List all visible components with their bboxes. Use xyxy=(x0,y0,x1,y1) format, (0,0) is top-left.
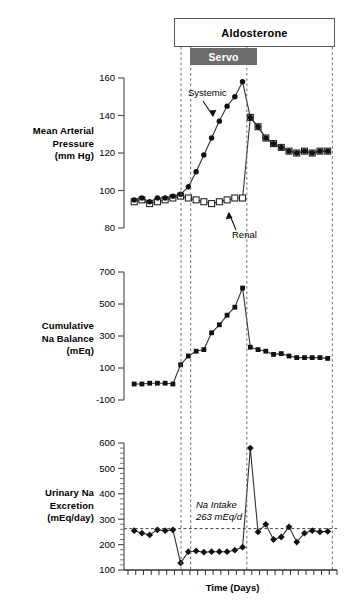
data-point-filled xyxy=(256,347,261,352)
y-axis-tick-label: 140 xyxy=(99,110,115,121)
data-point-filled xyxy=(318,355,323,360)
data-point-open xyxy=(216,199,222,205)
data-point-open xyxy=(224,197,230,203)
data-point-filled xyxy=(294,355,299,360)
data-point-filled xyxy=(193,169,198,174)
data-point-filled xyxy=(217,118,222,123)
y-axis-tick-label: 100 xyxy=(99,564,115,575)
data-point-filled xyxy=(139,195,144,200)
data-point-filled xyxy=(287,354,292,359)
data-point-filled xyxy=(310,355,315,360)
systemic-label: Systemic xyxy=(188,87,227,98)
y-axis-tick-label: 160 xyxy=(99,72,115,83)
data-point-open xyxy=(232,195,238,201)
y-axis-tick-label: 120 xyxy=(99,147,115,158)
data-point-filled xyxy=(231,547,238,554)
data-point-filled xyxy=(240,286,245,291)
data-point-filled xyxy=(146,532,153,539)
data-point-filled xyxy=(147,199,152,204)
data-point-filled xyxy=(201,347,206,352)
data-point-filled xyxy=(163,381,168,386)
y-axis-tick-label: 300 xyxy=(99,330,115,341)
systemic-arrow-icon xyxy=(209,110,216,117)
figure-root: Mean Arterial Pressure (mm Hg) Cumulativ… xyxy=(0,0,344,606)
data-point-filled xyxy=(154,526,161,533)
y-axis-tick-label: 600 xyxy=(99,437,115,448)
data-point-open xyxy=(209,201,215,207)
data-point-filled xyxy=(232,94,237,99)
data-point-filled xyxy=(147,381,152,386)
data-point-filled xyxy=(216,548,223,555)
data-point-filled xyxy=(279,145,284,150)
charts-svg: 16014012010080700500300100-1006005004003… xyxy=(0,0,344,606)
data-point-filled xyxy=(294,150,299,155)
series-line xyxy=(134,288,328,384)
data-point-filled xyxy=(217,322,222,327)
renal-arrow-icon xyxy=(226,212,233,219)
data-point-filled xyxy=(186,354,191,359)
data-point-filled xyxy=(310,150,315,155)
data-point-filled xyxy=(193,548,200,555)
data-point-filled xyxy=(132,382,137,387)
data-point-filled xyxy=(317,529,324,536)
data-point-filled xyxy=(209,330,214,335)
na-intake-label-line1: Na Intake xyxy=(196,499,237,510)
data-point-filled xyxy=(302,355,307,360)
data-point-filled xyxy=(325,356,330,361)
y-axis-tick-label: 300 xyxy=(99,514,115,525)
data-point-filled xyxy=(232,305,237,310)
y-axis-tick-label: -100 xyxy=(96,394,115,405)
y-axis-tick-label: 500 xyxy=(99,298,115,309)
y-axis-tick-label: 500 xyxy=(99,463,115,474)
data-point-filled xyxy=(194,349,199,354)
renal-label: Renal xyxy=(232,229,257,240)
y-axis-tick-label: 100 xyxy=(99,185,115,196)
data-point-open xyxy=(201,199,207,205)
data-point-filled xyxy=(279,351,284,356)
data-point-open xyxy=(240,195,246,201)
y-axis-tick-label: 100 xyxy=(99,362,115,373)
y-axis-tick-label: 700 xyxy=(99,266,115,277)
y-axis-tick-label: 200 xyxy=(99,539,115,550)
data-point-filled xyxy=(271,141,276,146)
data-point-filled xyxy=(155,381,160,386)
na-intake-label-line2: 263 mEq/d xyxy=(195,511,243,522)
plot-layer: 16014012010080700500300100-1006005004003… xyxy=(96,47,337,593)
data-point-filled xyxy=(263,135,268,140)
data-point-filled xyxy=(325,148,330,153)
panel-cumulative-na-balance: 700500300100-100 xyxy=(96,266,330,405)
data-point-filled xyxy=(170,193,175,198)
data-point-filled xyxy=(170,382,175,387)
data-point-filled xyxy=(271,352,276,357)
x-axis-title: Time (Days) xyxy=(206,582,260,593)
data-point-filled xyxy=(247,445,254,452)
data-point-filled xyxy=(248,345,253,350)
data-point-filled xyxy=(302,148,307,153)
data-point-filled xyxy=(225,313,230,318)
data-point-filled xyxy=(140,382,145,387)
data-point-filled xyxy=(208,548,215,555)
series-line xyxy=(134,117,328,203)
data-point-filled xyxy=(139,530,146,537)
data-point-filled xyxy=(317,148,322,153)
data-point-filled xyxy=(239,544,246,551)
data-point-filled xyxy=(224,548,231,555)
data-point-filled xyxy=(263,349,268,354)
data-point-filled xyxy=(131,197,136,202)
data-point-open xyxy=(193,197,199,203)
data-point-filled xyxy=(248,115,253,120)
data-point-filled xyxy=(255,124,260,129)
y-axis-tick-label: 80 xyxy=(104,222,115,233)
data-point-filled xyxy=(169,526,176,533)
data-point-filled xyxy=(286,148,291,153)
series-line xyxy=(134,82,328,202)
data-point-filled xyxy=(200,549,207,556)
y-axis-tick-label: 400 xyxy=(99,488,115,499)
data-point-filled xyxy=(209,135,214,140)
data-point-filled xyxy=(270,536,277,543)
data-point-filled xyxy=(162,195,167,200)
data-point-filled xyxy=(224,103,229,108)
data-point-filled xyxy=(201,152,206,157)
data-point-filled xyxy=(155,195,160,200)
data-point-filled xyxy=(240,79,245,84)
